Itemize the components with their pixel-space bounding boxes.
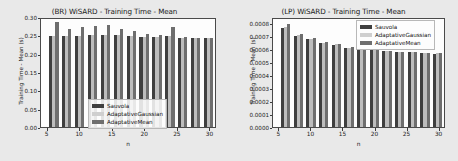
y-tick-mark-br-4 (38, 55, 41, 56)
chart-panel-lp: (LP) WiSARD - Training Time - Mean Train… (229, 0, 458, 161)
y-tick-mark-br-1 (38, 110, 41, 111)
bar-lp-wisard-training-time-mean-adaptativemean-n12 (325, 42, 328, 127)
x-tick-mark-br-4 (177, 128, 178, 131)
bar-lp-wisard-training-time-mean-adaptativemean-n14 (338, 44, 341, 127)
y-tick-label-br-3: 0.15 (7, 70, 37, 76)
x-tick-label-lp-4: 25 (397, 131, 417, 137)
bar-lp-wisard-training-time-mean-adaptativemean-n28 (427, 53, 430, 127)
bar-br-wisard-training-time-mean-adaptativemean-n8 (68, 29, 71, 127)
legend-item-br-adaptativemean[interactable]: AdaptativeMean (92, 118, 163, 126)
y-tick-label-lp-8: 0.0008 (235, 21, 269, 27)
x-tick-label-br-1: 10 (69, 131, 89, 137)
y-tick-mark-lp-4 (270, 76, 273, 77)
y-tick-mark-lp-7 (270, 37, 273, 38)
y-tick-label-lp-4: 0.0004 (235, 73, 269, 79)
y-tick-label-lp-0: 0.0000 (235, 125, 269, 131)
bar-br-wisard-training-time-mean-adaptativemean-n24 (171, 27, 174, 127)
y-tick-label-br-6: 0.30 (7, 15, 37, 21)
chart-panel-br: (BR) WiSARD - Training Time - Mean Train… (0, 0, 229, 161)
bar-br-wisard-training-time-mean-adaptativemean-n6 (55, 22, 58, 127)
legend-swatch-icon-sauvola (92, 104, 104, 109)
y-tick-mark-lp-3 (270, 89, 273, 90)
legend-label-sauvola: Sauvola (107, 102, 129, 110)
legend-br: SauvolaAdaptativeGaussianAdaptativeMean (88, 99, 167, 129)
legend-item-lp-adaptativegaussian[interactable]: AdaptativeGaussian (360, 31, 431, 39)
y-tick-label-lp-3: 0.0003 (235, 86, 269, 92)
legend-swatch-icon-adaptativemean (360, 41, 372, 46)
x-tick-mark-lp-5 (439, 128, 440, 131)
legend-swatch-icon-sauvola (360, 25, 372, 30)
bar-lp-wisard-training-time-mean-adaptativemean-n20 (376, 50, 379, 128)
x-tick-mark-lp-1 (310, 128, 311, 131)
legend-label-adaptativemean: AdaptativeMean (375, 39, 421, 47)
bar-lp-wisard-training-time-mean-adaptativemean-n6 (287, 24, 290, 127)
x-tick-label-br-3: 20 (134, 131, 154, 137)
x-tick-label-br-0: 5 (37, 131, 57, 137)
x-tick-mark-br-5 (209, 128, 210, 131)
x-tick-mark-lp-4 (407, 128, 408, 131)
bar-br-wisard-training-time-mean-adaptativemean-n28 (197, 38, 200, 127)
legend-item-br-adaptativegaussian[interactable]: AdaptativeGaussian (92, 110, 163, 118)
legend-swatch-icon-adaptativemean (92, 120, 104, 125)
legend-item-br-sauvola[interactable]: Sauvola (92, 102, 163, 110)
y-tick-mark-lp-8 (270, 24, 273, 25)
x-tick-mark-lp-2 (342, 128, 343, 131)
y-tick-label-br-2: 0.10 (7, 88, 37, 94)
bar-lp-wisard-training-time-mean-adaptativemean-n16 (351, 47, 354, 127)
bar-lp-wisard-training-time-mean-adaptativemean-n8 (300, 34, 303, 127)
y-tick-mark-lp-5 (270, 63, 273, 64)
x-tick-label-br-4: 25 (167, 131, 187, 137)
y-tick-label-lp-6: 0.0006 (235, 47, 269, 53)
legend-label-adaptativegaussian: AdaptativeGaussian (375, 31, 431, 39)
x-tick-label-lp-0: 5 (268, 131, 288, 137)
x-tick-label-lp-5: 30 (429, 131, 449, 137)
y-tick-label-lp-2: 0.0002 (235, 99, 269, 105)
y-tick-mark-br-6 (38, 18, 41, 19)
bar-br-wisard-training-time-mean-adaptativemean-n10 (81, 27, 84, 127)
y-tick-mark-br-2 (38, 91, 41, 92)
x-tick-label-lp-1: 10 (300, 131, 320, 137)
y-tick-label-br-5: 0.25 (7, 33, 37, 39)
y-tick-mark-br-3 (38, 73, 41, 74)
bar-lp-wisard-training-time-mean-adaptativemean-n22 (389, 51, 392, 127)
x-tick-label-lp-2: 15 (332, 131, 352, 137)
y-tick-mark-lp-6 (270, 50, 273, 51)
legend-swatch-icon-adaptativegaussian (360, 33, 372, 38)
y-tick-label-lp-1: 0.0001 (235, 112, 269, 118)
legend-label-adaptativegaussian: AdaptativeGaussian (107, 110, 163, 118)
y-axis-label-lp: Training Time - Mean (s) (250, 16, 256, 126)
y-tick-label-br-4: 0.20 (7, 52, 37, 58)
bar-lp-wisard-training-time-mean-adaptativemean-n26 (414, 52, 417, 127)
x-tick-label-br-2: 15 (102, 131, 122, 137)
legend-lp: SauvolaAdaptativeGaussianAdaptativeMean (356, 20, 435, 50)
legend-item-lp-adaptativemean[interactable]: AdaptativeMean (360, 39, 431, 47)
y-tick-mark-lp-1 (270, 115, 273, 116)
y-tick-label-lp-7: 0.0007 (235, 34, 269, 40)
chart-title-lp: (LP) WiSARD - Training Time - Mean (229, 7, 458, 16)
bar-br-wisard-training-time-mean-adaptativemean-n26 (184, 37, 187, 127)
x-tick-mark-lp-0 (278, 128, 279, 131)
x-tick-mark-br-0 (47, 128, 48, 131)
legend-label-adaptativemean: AdaptativeMean (107, 118, 153, 126)
legend-label-sauvola: Sauvola (375, 23, 397, 31)
y-tick-mark-br-0 (38, 128, 41, 129)
y-tick-label-br-0: 0.00 (7, 125, 37, 131)
x-tick-label-lp-3: 20 (365, 131, 385, 137)
x-axis-label-lp: n (272, 141, 445, 147)
y-tick-mark-br-5 (38, 36, 41, 37)
bar-lp-wisard-training-time-mean-adaptativemean-n10 (313, 38, 316, 127)
y-tick-label-br-1: 0.05 (7, 107, 37, 113)
y-tick-mark-lp-0 (270, 128, 273, 129)
bar-lp-wisard-training-time-mean-adaptativemean-n30 (439, 53, 442, 127)
x-tick-mark-lp-3 (375, 128, 376, 131)
y-tick-label-lp-5: 0.0005 (235, 60, 269, 66)
x-tick-mark-br-1 (79, 128, 80, 131)
x-axis-label-br: n (40, 141, 216, 147)
figure-canvas: (BR) WiSARD - Training Time - Mean Train… (0, 0, 458, 161)
legend-item-lp-sauvola[interactable]: Sauvola (360, 23, 431, 31)
legend-swatch-icon-adaptativegaussian (92, 112, 104, 117)
bar-br-wisard-training-time-mean-adaptativemean-n30 (210, 38, 213, 127)
bar-lp-wisard-training-time-mean-adaptativemean-n24 (401, 52, 404, 127)
y-tick-mark-lp-2 (270, 102, 273, 103)
x-tick-label-br-5: 30 (199, 131, 219, 137)
